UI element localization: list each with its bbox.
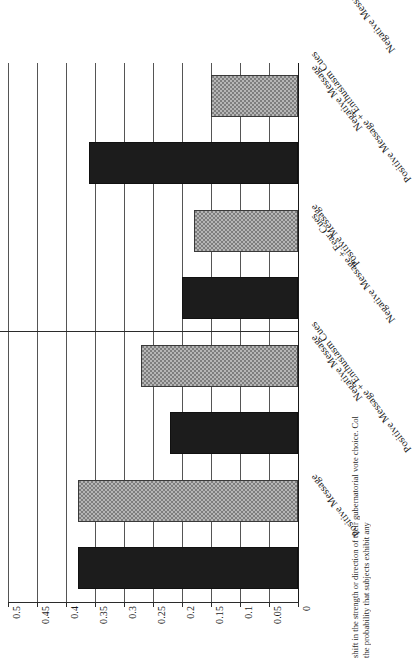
bar (211, 75, 298, 117)
gridline (66, 63, 67, 602)
y-axis-tick-label: 0.45 (40, 606, 51, 636)
bar (89, 142, 298, 184)
y-axis-tickmark (182, 602, 183, 607)
y-axis-tick-label: 0.4 (69, 606, 80, 636)
y-axis-tickmark (153, 602, 154, 607)
y-axis-tick-label: 0.05 (272, 606, 283, 636)
y-axis-tickmark (66, 602, 67, 607)
y-axis-tickmark (8, 602, 9, 607)
y-axis-tick-label: 0.15 (214, 606, 225, 636)
y-axis-tickmark (298, 602, 299, 607)
bar (182, 277, 298, 319)
y-axis-tickmark (240, 602, 241, 607)
y-axis-tick-label: 0 (301, 606, 312, 636)
figure-caption-bottom: the probability that subjects exhibit an… (361, 0, 371, 658)
figure-caption-top: shift in the strength or direction of th… (350, 0, 360, 658)
y-axis-title-line-1: Probability of Shifting Vote Preference (0, 644, 34, 657)
y-axis-tick-labels: 00.050.10.150.20.250.30.350.40.450.5 (8, 606, 298, 636)
y-axis-tick-label: 0.3 (127, 606, 138, 636)
gridline (8, 63, 9, 602)
y-axis-tickmark (95, 602, 96, 607)
y-axis-tick-label: 0.5 (11, 606, 22, 636)
plot-area: Any Shift in Vote ChoicePositive Message… (8, 63, 298, 603)
y-axis-tickmark (124, 602, 125, 607)
y-axis-tickmark (269, 602, 270, 607)
y-axis-tickmark (211, 602, 212, 607)
y-axis-tick-label: 0.1 (243, 606, 254, 636)
bar (78, 547, 298, 589)
bar (78, 480, 298, 522)
bar (141, 345, 298, 387)
bar (194, 210, 298, 252)
gridline (37, 63, 38, 602)
panel-divider (0, 331, 298, 332)
y-axis-tick-label: 0.25 (156, 606, 167, 636)
y-axis-tick-label: 0.2 (185, 606, 196, 636)
y-axis-tick-label: 0.35 (98, 606, 109, 636)
axis-baseline (298, 63, 299, 602)
y-axis-tickmark (37, 602, 38, 607)
bar (170, 412, 298, 454)
